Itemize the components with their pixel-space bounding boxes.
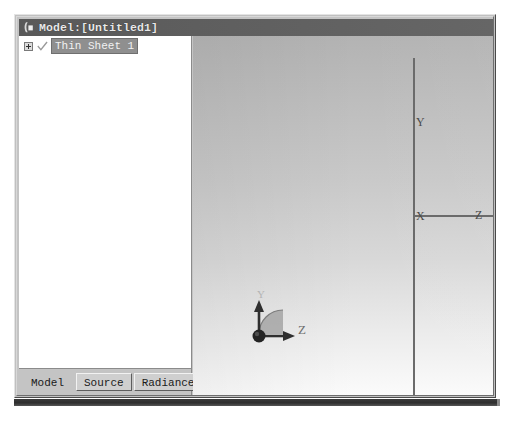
tab-source[interactable]: Source xyxy=(76,373,132,391)
tab-model[interactable]: Model xyxy=(25,373,74,391)
window-drop-shadow xyxy=(14,399,497,406)
expand-plus-icon[interactable] xyxy=(24,42,33,51)
orientation-gizmo[interactable]: Y Z xyxy=(239,286,311,356)
tree-item-thin-sheet-1[interactable]: Thin Sheet 1 xyxy=(19,39,191,53)
svg-text:Y: Y xyxy=(257,288,265,300)
y-axis-label: Y xyxy=(416,116,425,128)
y-axis-line xyxy=(413,58,415,395)
panel-tab-strip: Model Source Radiance xyxy=(19,368,191,395)
client-area: Thin Sheet 1 Model Source Radiance Y X xyxy=(19,36,493,395)
window-title: Model:[Untitled1] xyxy=(39,21,158,34)
tree-item-label: Thin Sheet 1 xyxy=(51,38,138,54)
model-window: Model:[Untitled1] Thin Sheet 1 xyxy=(14,14,496,398)
3d-viewport[interactable]: Y X Z Y xyxy=(193,36,493,395)
window-drop-shadow-cap xyxy=(497,399,500,406)
x-axis-label: X xyxy=(416,210,425,222)
checkmark-icon[interactable] xyxy=(37,41,48,52)
svg-text:Z: Z xyxy=(298,322,306,337)
model-tree[interactable]: Thin Sheet 1 xyxy=(19,36,191,368)
window-inner-frame: Model:[Untitled1] Thin Sheet 1 xyxy=(16,16,494,396)
application-icon xyxy=(22,21,35,34)
model-tree-panel: Thin Sheet 1 Model Source Radiance xyxy=(19,36,192,395)
title-bar[interactable]: Model:[Untitled1] xyxy=(19,19,493,36)
z-axis-label: Z xyxy=(475,209,482,221)
